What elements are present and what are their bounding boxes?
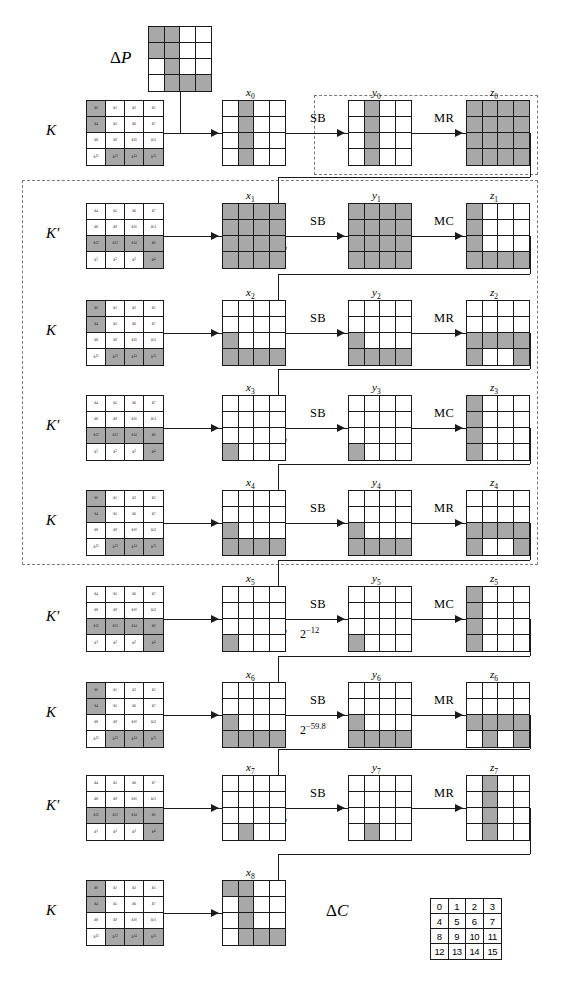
difference-glyph xyxy=(239,881,254,896)
difference-glyph xyxy=(396,252,412,268)
difference-glyph xyxy=(467,539,482,555)
difference-glyph xyxy=(349,220,364,235)
difference-glyph xyxy=(349,349,364,365)
state-cell-2 xyxy=(254,204,270,220)
state-cell-3 xyxy=(396,587,412,603)
state-cell-7 xyxy=(514,317,530,333)
state-cell-3 xyxy=(514,587,530,603)
feedback-down-4 xyxy=(530,523,531,560)
state-cell-8 xyxy=(223,619,239,635)
state-cell-11 xyxy=(270,913,286,929)
state-cell-7 xyxy=(270,699,286,715)
state-cell-7 xyxy=(396,117,412,133)
delta-c-label: ΔC xyxy=(326,901,348,921)
difference-glyph xyxy=(239,731,254,747)
difference-glyph xyxy=(483,117,498,132)
state-cell-8 xyxy=(467,808,483,824)
state-cell-11 xyxy=(514,619,530,635)
state-cell-14 xyxy=(254,635,270,651)
state-cell-10 xyxy=(254,428,270,444)
state-cell-13 xyxy=(483,539,499,555)
state-cell-6 xyxy=(498,507,514,523)
state-cell-12 xyxy=(223,539,239,555)
arrow-to-x-0 xyxy=(211,129,219,137)
state-cell-2 xyxy=(380,776,396,792)
state-cell-15 xyxy=(396,349,412,365)
state-label-z4: z4 xyxy=(490,476,498,491)
state-cell-10 xyxy=(254,913,270,929)
key-cell-6: k10 xyxy=(125,220,144,236)
state-cell-12 xyxy=(349,731,365,747)
state-cell-6 xyxy=(380,699,396,715)
key-cell-11: k11 xyxy=(144,715,163,731)
state-cell-5 xyxy=(365,117,381,133)
state-cell-6 xyxy=(498,603,514,619)
state-cell-12 xyxy=(467,824,483,840)
state-cell-11 xyxy=(514,236,530,252)
sbox-label-round-5: SB xyxy=(310,597,326,612)
state-cell-7 xyxy=(396,317,412,333)
key-cell-10: k14 xyxy=(125,428,144,444)
difference-glyph xyxy=(467,349,482,365)
state-cell-8 xyxy=(349,333,365,349)
state-cell-15 xyxy=(396,635,412,651)
difference-glyph xyxy=(498,523,513,538)
state-cell-3 xyxy=(396,491,412,507)
state-cell-9 xyxy=(483,715,499,731)
state-cell-7 xyxy=(514,699,530,715)
difference-glyph xyxy=(254,929,269,945)
difference-glyph xyxy=(467,523,482,538)
state-cell-2 xyxy=(380,683,396,699)
state-cell-5 xyxy=(365,412,381,428)
difference-glyph xyxy=(396,236,412,251)
difference-glyph xyxy=(483,808,498,823)
difference-glyph xyxy=(380,539,395,555)
state-cell-2 xyxy=(498,204,514,220)
state-grid-y3 xyxy=(348,395,412,461)
state-grid-z5 xyxy=(466,586,530,652)
state-cell-9 xyxy=(239,808,255,824)
difference-glyph xyxy=(380,236,395,251)
difference-glyph xyxy=(254,236,269,251)
state-label-x3: x3 xyxy=(246,381,255,396)
state-cell-13 xyxy=(483,731,499,747)
state-cell-6 xyxy=(380,317,396,333)
key-label-round-4: K xyxy=(46,512,56,529)
state-cell-2 xyxy=(498,301,514,317)
difference-glyph xyxy=(514,349,530,365)
state-cell-13 xyxy=(239,349,255,365)
state-cell-11 xyxy=(396,133,412,149)
key-cell-0: k0 xyxy=(87,101,106,117)
state-cell-4 xyxy=(349,699,365,715)
difference-glyph xyxy=(270,731,286,747)
key-cell-13: k2 xyxy=(106,444,125,460)
state-cell-15 xyxy=(270,149,286,165)
state-grid-x6 xyxy=(222,682,286,748)
state-cell-9 xyxy=(365,619,381,635)
state-cell-0 xyxy=(349,491,365,507)
state-cell-5 xyxy=(239,699,255,715)
state-cell-11 xyxy=(396,428,412,444)
state-cell-14 xyxy=(498,824,514,840)
state-cell-8 xyxy=(223,808,239,824)
state-cell-0 xyxy=(467,101,483,117)
state-cell-13 xyxy=(365,252,381,268)
difference-glyph xyxy=(380,731,395,747)
state-cell-0 xyxy=(349,101,365,117)
state-label-x4: x4 xyxy=(246,476,255,491)
state-cell-5 xyxy=(239,220,255,236)
state-grid-y4 xyxy=(348,490,412,556)
state-cell-10 xyxy=(380,333,396,349)
key-cell-8: k12 xyxy=(87,808,106,824)
key-cell-15: k4 xyxy=(144,635,163,651)
state-cell-13 xyxy=(365,349,381,365)
probability-label-round-6: 2−59.8 xyxy=(300,721,326,738)
key-cell-10: k10 xyxy=(125,333,144,349)
key-grid-round-6: k0k1k2k3k4k5k6k7k8k9k10k11k12k13k14k15 xyxy=(86,682,164,748)
legend-cell-9: 9 xyxy=(449,929,467,944)
difference-glyph xyxy=(349,731,364,747)
state-cell-3 xyxy=(396,204,412,220)
state-cell-12 xyxy=(467,635,483,651)
state-cell-13 xyxy=(365,149,381,165)
arrow-to-y-4 xyxy=(337,519,345,527)
